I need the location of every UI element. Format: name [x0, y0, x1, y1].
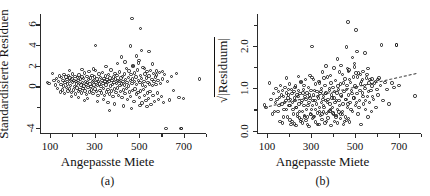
- data-point: [340, 95, 343, 98]
- data-point: [359, 123, 362, 126]
- y-tick-a--4: [36, 128, 40, 129]
- data-point: [155, 73, 158, 76]
- data-point: [379, 84, 382, 87]
- data-point: [109, 68, 112, 71]
- data-point: [120, 55, 123, 58]
- data-point: [319, 114, 322, 117]
- data-point: [332, 66, 335, 69]
- data-point: [310, 108, 313, 111]
- data-point: [390, 81, 393, 84]
- data-point: [304, 119, 307, 122]
- data-point: [369, 89, 372, 92]
- data-point: [336, 57, 339, 60]
- y-tick-b-2.5: [254, 25, 257, 26]
- data-point: [392, 86, 395, 89]
- data-point: [123, 60, 126, 63]
- data-point: [322, 106, 325, 109]
- x-tick-b-600: [377, 134, 378, 137]
- data-point: [366, 67, 369, 70]
- x-axis-title-a: Angepasste Miete: [61, 154, 155, 170]
- data-point: [87, 70, 90, 73]
- data-point: [138, 104, 141, 107]
- data-point: [129, 95, 132, 98]
- data-point: [352, 75, 355, 78]
- x-ticklabel-b-500: 500: [347, 141, 364, 152]
- data-point: [317, 123, 320, 126]
- data-point: [307, 101, 310, 104]
- data-point: [139, 27, 142, 30]
- data-point: [323, 84, 326, 87]
- data-point: [296, 95, 299, 98]
- data-point: [162, 101, 165, 104]
- data-point: [142, 88, 145, 91]
- data-point: [413, 94, 416, 97]
- data-point: [113, 102, 116, 105]
- data-point: [355, 92, 358, 95]
- data-point: [142, 80, 145, 83]
- data-point: [366, 115, 369, 118]
- data-point: [70, 95, 73, 98]
- data-point: [94, 44, 97, 47]
- data-point: [147, 97, 150, 100]
- data-point: [370, 77, 373, 80]
- data-point: [161, 77, 164, 80]
- data-point: [372, 98, 375, 101]
- data-point: [351, 110, 354, 113]
- data-point: [356, 112, 359, 115]
- x-tick-a-200: [72, 134, 73, 137]
- data-point: [132, 100, 135, 103]
- data-point: [47, 82, 50, 85]
- y-ticklabel-a-2: 2: [27, 63, 38, 69]
- data-point: [120, 96, 123, 99]
- data-point: [116, 62, 119, 65]
- data-point: [161, 70, 164, 73]
- x-ticklabel-a-300: 300: [86, 141, 103, 152]
- data-point: [348, 120, 351, 123]
- x-tick-a-500: [139, 134, 140, 138]
- data-point: [136, 68, 139, 71]
- data-point: [285, 108, 288, 111]
- data-point: [302, 84, 305, 87]
- data-point: [301, 110, 304, 113]
- x-tick-b-500: [355, 134, 356, 138]
- data-point: [153, 100, 156, 103]
- y-tick-b-0.5: [254, 109, 257, 110]
- x-tick-a-100: [50, 134, 51, 138]
- data-point: [329, 74, 332, 77]
- y-ticklabel-b-1: 1.0: [240, 81, 251, 95]
- data-point: [172, 89, 175, 92]
- x-tick-b-700: [399, 134, 400, 138]
- data-point: [104, 65, 107, 68]
- data-point: [359, 73, 362, 76]
- data-point: [51, 72, 54, 75]
- y-axis-title-b-body: |Residuum|: [214, 37, 230, 97]
- data-point: [334, 114, 337, 117]
- data-point: [343, 77, 346, 80]
- data-point: [370, 84, 373, 87]
- data-point: [160, 95, 163, 98]
- data-point: [368, 101, 371, 104]
- data-point: [348, 101, 351, 104]
- data-point: [364, 99, 367, 102]
- data-point: [268, 81, 271, 84]
- data-point: [381, 99, 384, 102]
- data-point: [148, 90, 151, 93]
- data-point: [345, 45, 348, 48]
- data-point: [375, 88, 378, 91]
- data-point: [69, 84, 72, 87]
- data-point: [285, 76, 288, 79]
- data-point: [299, 80, 302, 83]
- y-axis-title-a: Standardisierte Residuen: [0, 9, 12, 139]
- panel-caption-b: (b): [316, 174, 330, 189]
- data-point: [140, 49, 143, 52]
- x-tick-b-400: [333, 134, 334, 137]
- data-point: [314, 82, 317, 85]
- x-tick-b-200: [289, 134, 290, 137]
- data-point: [385, 88, 388, 91]
- data-point: [365, 73, 368, 76]
- data-point: [311, 104, 314, 107]
- y-ticklabel-b-0: 0.0: [240, 124, 251, 138]
- data-point: [310, 45, 313, 48]
- data-point: [129, 44, 132, 47]
- data-point: [341, 73, 344, 76]
